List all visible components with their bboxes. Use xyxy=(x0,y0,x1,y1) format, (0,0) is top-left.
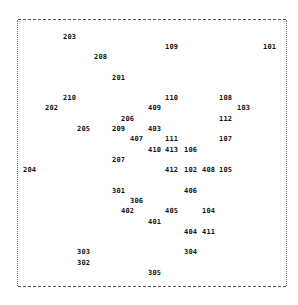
node-label: 302 xyxy=(77,259,90,267)
node-label: 413 xyxy=(165,146,178,154)
node-label: 406 xyxy=(184,187,197,195)
node-label: 202 xyxy=(45,104,58,112)
node-label: 207 xyxy=(112,156,125,164)
node-label: 306 xyxy=(130,197,143,205)
node-label: 203 xyxy=(63,33,76,41)
node-label: 405 xyxy=(165,207,178,215)
node-label: 403 xyxy=(148,125,161,133)
node-label: 110 xyxy=(165,94,178,102)
node-label: 209 xyxy=(112,125,125,133)
node-label: 404 xyxy=(184,228,197,236)
node-label: 103 xyxy=(237,104,250,112)
node-label: 301 xyxy=(112,187,125,195)
node-label: 206 xyxy=(121,115,134,123)
node-label: 108 xyxy=(219,94,232,102)
node-label: 205 xyxy=(77,125,90,133)
node-label: 107 xyxy=(219,135,232,143)
frame-right-border xyxy=(286,20,287,286)
node-label: 201 xyxy=(112,74,125,82)
node-label: 104 xyxy=(202,207,215,215)
node-label: 409 xyxy=(148,104,161,112)
node-label: 304 xyxy=(184,248,197,256)
node-label: 106 xyxy=(184,146,197,154)
node-label: 109 xyxy=(165,43,178,51)
node-label: 210 xyxy=(63,94,76,102)
node-label: 305 xyxy=(148,269,161,277)
frame-left-border xyxy=(17,20,18,286)
node-label: 401 xyxy=(148,218,161,226)
node-label: 101 xyxy=(263,43,276,51)
node-label: 102 xyxy=(184,166,197,174)
node-label: 112 xyxy=(219,115,232,123)
node-label: 204 xyxy=(23,166,36,174)
node-label: 111 xyxy=(165,135,178,143)
node-label: 411 xyxy=(202,228,215,236)
frame-bottom-border xyxy=(18,286,286,287)
node-label: 303 xyxy=(77,248,90,256)
node-label: 105 xyxy=(219,166,232,174)
frame-top-border xyxy=(18,19,286,20)
node-label: 412 xyxy=(165,166,178,174)
node-label: 407 xyxy=(130,135,143,143)
node-label: 410 xyxy=(148,146,161,154)
node-label: 208 xyxy=(94,53,107,61)
node-label: 402 xyxy=(121,207,134,215)
node-label: 408 xyxy=(202,166,215,174)
